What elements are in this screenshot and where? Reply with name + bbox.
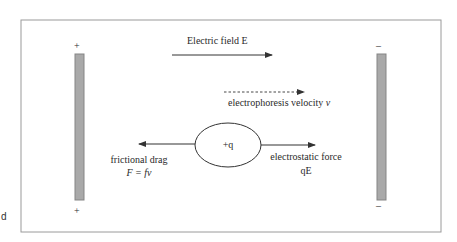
cropped-text-fragment: d [1, 211, 7, 222]
velocity-label: electrophoresis velocity v [228, 98, 330, 108]
electrostatic-force-label: electrostatic force [264, 152, 348, 162]
electrophoresis-diagram: + + – – Electric field E electrophoresis… [0, 0, 457, 242]
left-plate-bottom-sign: + [74, 206, 80, 216]
left-electrode-plate [75, 54, 84, 200]
velocity-symbol: v [326, 97, 330, 108]
right-plate-bottom-sign: – [376, 201, 381, 211]
right-plate-top-sign: – [376, 41, 381, 51]
particle-charge-label: +q [208, 140, 248, 150]
electric-field-label: Electric field E [187, 36, 248, 46]
right-electrode-plate [377, 54, 386, 200]
drag-formula: F = fv [104, 168, 174, 178]
electrostatic-force-formula: qE [264, 166, 348, 176]
velocity-label-text: electrophoresis velocity [228, 97, 326, 108]
drag-label: frictional drag [104, 155, 174, 165]
left-plate-top-sign: + [74, 41, 80, 51]
